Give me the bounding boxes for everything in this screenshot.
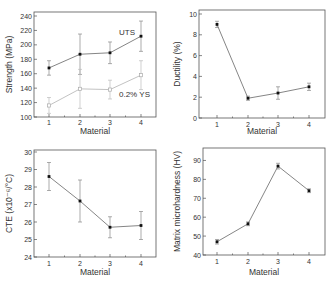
y-tick-label: 60 xyxy=(193,214,201,221)
y-tick-label: 200 xyxy=(20,41,32,48)
x-tick-label: 3 xyxy=(276,258,280,265)
y-tick-label: 80 xyxy=(193,176,201,183)
data-marker xyxy=(308,189,311,192)
y-tick-label: 120 xyxy=(20,99,32,106)
data-marker xyxy=(216,240,219,243)
y-tick-label: 90 xyxy=(193,157,201,164)
data-marker xyxy=(277,165,280,168)
y-tick-label: 28 xyxy=(24,184,32,191)
x-tick-label: 4 xyxy=(307,258,311,265)
y-axis-label: CTE (x10⁻⁶/°C) xyxy=(4,174,14,233)
y-tick-label: 70 xyxy=(193,195,201,202)
data-marker xyxy=(139,74,142,77)
data-marker xyxy=(78,87,81,90)
y-tick-label: 100 xyxy=(20,114,32,121)
x-tick-label: 1 xyxy=(215,121,219,128)
y-tick-label: 30 xyxy=(24,149,32,156)
y-tick-label: 50 xyxy=(193,233,201,240)
data-marker xyxy=(140,35,143,38)
ductility-chart: 02468101234MaterialDuctility (%) xyxy=(172,10,325,136)
data-marker xyxy=(47,104,50,107)
y-tick-label: 25 xyxy=(24,236,32,243)
microhardness-chart: 4050607080901234MaterialMatrix microhard… xyxy=(172,148,325,277)
x-tick-label: 4 xyxy=(139,119,143,126)
y-tick-label: 0 xyxy=(193,115,197,122)
y-tick-label: 10 xyxy=(189,11,197,18)
x-tick-label: 3 xyxy=(108,260,112,267)
y-tick-label: 220 xyxy=(20,27,32,34)
x-axis-label: Material xyxy=(80,126,110,136)
data-marker xyxy=(109,226,112,229)
data-marker xyxy=(277,92,280,95)
y-tick-label: 140 xyxy=(20,85,32,92)
y-tick-label: 27 xyxy=(24,201,32,208)
y-tick-label: 26 xyxy=(24,219,32,226)
data-marker xyxy=(48,67,51,70)
data-marker xyxy=(79,53,82,56)
data-marker xyxy=(140,224,143,227)
strength-chart: 1001201401601802002202401234MaterialStre… xyxy=(4,12,156,136)
y-tick-label: 160 xyxy=(20,70,32,77)
x-axis-label: Material xyxy=(80,267,110,277)
figure: 1001201401601802002202401234MaterialStre… xyxy=(0,0,334,282)
plot-frame xyxy=(34,150,156,257)
data-marker xyxy=(79,200,82,203)
y-tick-label: 4 xyxy=(193,73,197,80)
series-line xyxy=(217,166,309,242)
data-marker xyxy=(109,51,112,54)
x-tick-label: 1 xyxy=(215,258,219,265)
series-line xyxy=(217,24,309,98)
x-tick-label: 1 xyxy=(47,260,51,267)
y-tick-label: 8 xyxy=(193,31,197,38)
data-marker xyxy=(216,23,219,26)
data-marker xyxy=(247,222,250,225)
data-marker xyxy=(108,88,111,91)
x-tick-label: 2 xyxy=(246,258,250,265)
x-axis-label: Material xyxy=(247,126,277,136)
data-marker xyxy=(48,175,51,178)
x-tick-label: 3 xyxy=(108,119,112,126)
x-tick-label: 2 xyxy=(78,119,82,126)
series-line xyxy=(49,36,141,68)
data-marker xyxy=(308,85,311,88)
ys-annotation: 0.2% YS xyxy=(119,90,150,99)
y-axis-label: Strength (MPa) xyxy=(4,36,14,94)
uts-annotation: UTS xyxy=(119,28,135,37)
cte-chart: 242526272829301234MaterialCTE (x10⁻⁶/°C) xyxy=(4,149,156,278)
x-tick-label: 4 xyxy=(307,121,311,128)
y-tick-label: 180 xyxy=(20,56,32,63)
x-axis-label: Material xyxy=(249,267,279,277)
y-tick-label: 29 xyxy=(24,166,32,173)
data-marker xyxy=(247,97,250,100)
y-tick-label: 240 xyxy=(20,13,32,20)
y-tick-label: 40 xyxy=(193,252,201,259)
y-tick-label: 2 xyxy=(193,94,197,101)
x-tick-label: 4 xyxy=(139,260,143,267)
y-tick-label: 24 xyxy=(24,254,32,261)
x-tick-label: 1 xyxy=(47,119,51,126)
y-axis-label: Matrix microhardness (HV) xyxy=(172,151,182,252)
plot-frame xyxy=(34,12,156,117)
x-tick-label: 2 xyxy=(78,260,82,267)
y-tick-label: 6 xyxy=(193,52,197,59)
y-axis-label: Ductility (%) xyxy=(172,41,182,87)
series-line xyxy=(49,177,141,228)
